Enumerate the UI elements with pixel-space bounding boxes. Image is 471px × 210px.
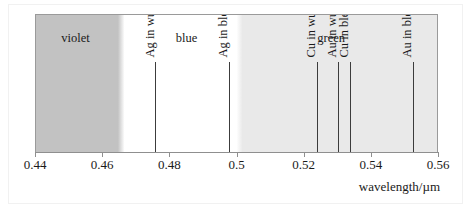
spectrum-color-band xyxy=(36,15,437,152)
x-axis-tick-label: 0.48 xyxy=(158,158,181,171)
x-axis-tick-label: 0.5 xyxy=(228,158,244,171)
x-axis-tick-label: 0.52 xyxy=(292,158,315,171)
region-label-violet: violet xyxy=(61,32,89,45)
x-axis-title: wavelength/µm xyxy=(359,180,440,193)
marker-label: Ag in blende xyxy=(217,14,230,59)
marker-line xyxy=(229,62,230,152)
marker-label: Cu in wurtzite xyxy=(305,14,318,59)
region-label-blue: blue xyxy=(176,32,198,45)
x-axis-tick-label: 0.54 xyxy=(359,158,382,171)
x-axis-tick-label: 0.56 xyxy=(427,158,450,171)
marker-label: Ag in wurtzite xyxy=(143,14,156,59)
x-axis-tick-label: 0.46 xyxy=(91,158,114,171)
marker-label: Au in blende xyxy=(401,14,414,59)
marker-line xyxy=(350,62,351,152)
spectrum-plot-area: violetbluegreen Ag in wurtziteAg in blen… xyxy=(35,14,438,152)
x-axis-tick-label: 0.44 xyxy=(24,158,47,171)
marker-label: Cu in blende xyxy=(338,14,351,59)
marker-line xyxy=(413,62,414,152)
marker-line xyxy=(338,62,339,152)
spectrum-figure: violetbluegreen Ag in wurtziteAg in blen… xyxy=(0,0,471,210)
marker-line xyxy=(155,62,156,152)
marker-line xyxy=(317,62,318,152)
